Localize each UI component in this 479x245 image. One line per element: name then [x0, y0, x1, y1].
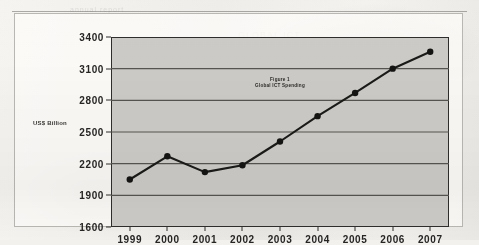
x-axis-tick-label: 2006 — [380, 234, 405, 245]
x-axis-tick-label: 2007 — [418, 234, 443, 245]
data-point-marker — [277, 138, 283, 144]
y-axis-tick-mark — [106, 163, 111, 164]
x-axis-tick-label: 2005 — [343, 234, 368, 245]
data-point-marker — [164, 153, 170, 159]
x-axis-tick-label: 1999 — [117, 234, 142, 245]
y-axis-tick-mark — [106, 37, 111, 38]
data-point-marker — [239, 162, 245, 168]
y-axis-tick-mark — [106, 195, 111, 196]
x-axis-tick-mark — [167, 227, 168, 231]
x-axis-tick-mark — [392, 227, 393, 231]
plot-area-wrapper: 1600190022002500280031003400 19992000200… — [111, 37, 449, 227]
x-axis-tick-label: 2003 — [268, 234, 293, 245]
y-axis-tick-mark — [106, 227, 111, 228]
data-point-marker — [202, 169, 208, 175]
y-axis-tick-label: 3100 — [79, 63, 104, 74]
y-axis-tick-label: 2800 — [79, 95, 104, 106]
y-axis-tick-mark — [106, 132, 111, 133]
data-point-marker — [427, 49, 433, 55]
x-axis-tick-label: 2000 — [155, 234, 180, 245]
y-axis-tick-label: 2500 — [79, 127, 104, 138]
y-axis-tick-mark — [106, 68, 111, 69]
x-axis-tick-mark — [280, 227, 281, 231]
y-axis-tick-mark — [106, 100, 111, 101]
x-axis-tick-label: 2001 — [193, 234, 218, 245]
data-series-line — [111, 37, 449, 227]
x-axis-tick-mark — [317, 227, 318, 231]
y-axis-title: US$ Billion — [33, 120, 67, 126]
series-polyline — [130, 52, 430, 180]
x-axis-tick-mark — [129, 227, 130, 231]
x-axis-tick-mark — [242, 227, 243, 231]
data-point-marker — [314, 113, 320, 119]
data-point-marker — [352, 90, 358, 96]
data-point-marker — [389, 65, 395, 71]
x-axis-tick-mark — [355, 227, 356, 231]
x-axis-tick-label: 2002 — [230, 234, 255, 245]
y-axis-tick-label: 1600 — [79, 222, 104, 233]
chart-frame: US$ Billion 1600190022002500280031003400… — [14, 13, 463, 227]
x-axis-tick-label: 2004 — [305, 234, 330, 245]
x-axis-tick-mark — [204, 227, 205, 231]
y-axis-tick-label: 1900 — [79, 190, 104, 201]
y-axis-tick-label: 2200 — [79, 158, 104, 169]
page-horizontal-rule — [12, 11, 467, 12]
y-axis-tick-label: 3400 — [79, 32, 104, 43]
data-point-marker — [127, 176, 133, 182]
x-axis-tick-mark — [430, 227, 431, 231]
